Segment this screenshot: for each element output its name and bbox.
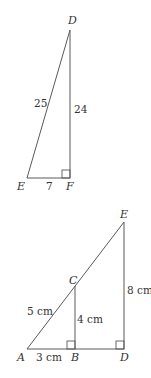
right-angle-marker-d bbox=[116, 341, 124, 349]
vertex-label-f: F bbox=[65, 180, 74, 193]
side-length-ac: 5 cm bbox=[27, 305, 53, 317]
right-angle-marker-f bbox=[62, 170, 70, 178]
side-length-ab: 3 cm bbox=[36, 351, 62, 363]
similar-triangles-abc-ade: E C A B D 8 cm 5 cm 4 cm 3 cm bbox=[16, 208, 151, 364]
right-angle-marker-b bbox=[67, 341, 75, 349]
side-length-ef: 7 bbox=[46, 180, 53, 192]
vertex-label-a: A bbox=[16, 351, 25, 364]
vertex-label-b: B bbox=[70, 351, 79, 364]
side-length-df: 24 bbox=[74, 103, 88, 115]
vertex-label-c: C bbox=[69, 274, 78, 287]
vertex-label-e: E bbox=[119, 208, 128, 221]
triangle-def: D E F 25 24 7 bbox=[16, 14, 88, 193]
side-length-bc: 4 cm bbox=[77, 313, 103, 325]
vertex-label-e: E bbox=[16, 180, 25, 193]
vertex-label-d: D bbox=[67, 14, 77, 27]
side-length-de: 25 bbox=[34, 97, 47, 109]
figure-canvas: D E F 25 24 7 E C A B D 8 cm 5 cm 4 cm 3… bbox=[0, 0, 151, 378]
vertex-label-d: D bbox=[119, 351, 129, 364]
side-length-de: 8 cm bbox=[127, 284, 151, 296]
